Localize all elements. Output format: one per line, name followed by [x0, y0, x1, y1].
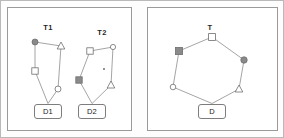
document-box-D2[interactable]: D2	[78, 104, 106, 119]
separate-trees-panel	[7, 7, 132, 131]
figure-root: T1D1T2D2TD	[0, 0, 284, 138]
tree-label-T1: T1	[43, 23, 52, 32]
tree-label-T: T	[208, 23, 213, 32]
document-box-D1[interactable]: D1	[34, 104, 62, 119]
document-box-D[interactable]: D	[198, 104, 226, 119]
tree-label-T2: T2	[97, 28, 106, 37]
